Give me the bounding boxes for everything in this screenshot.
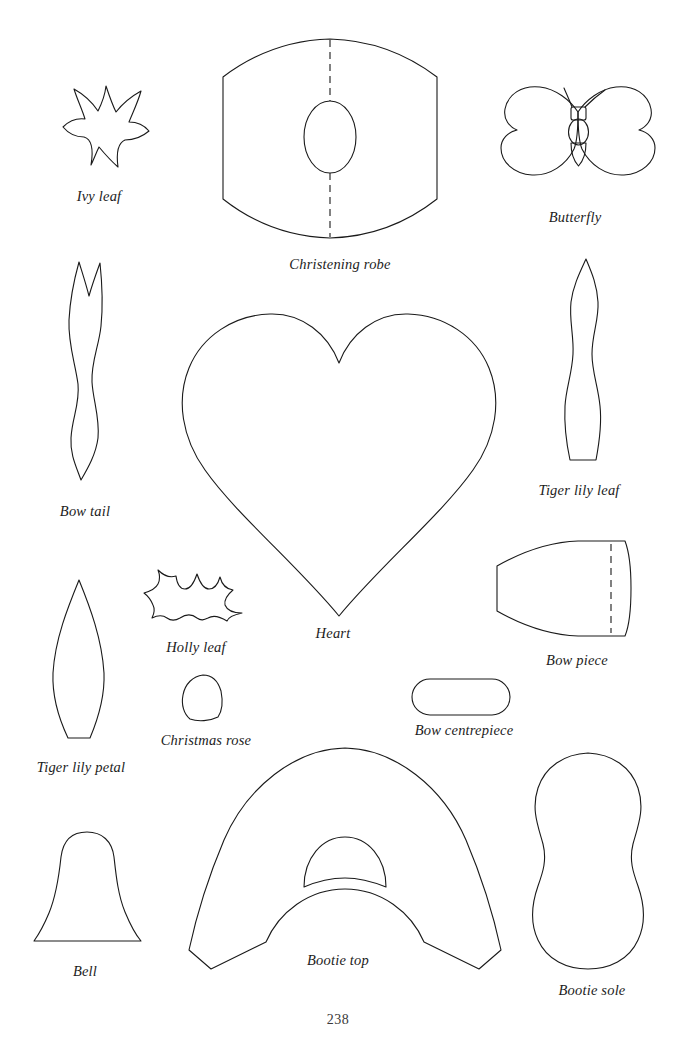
template-shape-christening-robe bbox=[210, 36, 450, 241]
template-shape-bow-tail bbox=[58, 258, 120, 483]
page-number: 238 bbox=[327, 1012, 350, 1028]
bow-tail-icon bbox=[58, 258, 120, 483]
bootie-top-icon bbox=[185, 745, 505, 985]
caption-heart: Heart bbox=[316, 625, 351, 642]
tiger-lily-petal-icon bbox=[48, 577, 110, 742]
bow-piece-icon bbox=[494, 536, 634, 641]
caption-christening-robe: Christening robe bbox=[289, 256, 390, 273]
caption-bow-piece: Bow piece bbox=[546, 652, 608, 669]
template-shape-butterfly bbox=[492, 82, 664, 187]
template-shape-tiger-lily-petal bbox=[48, 577, 110, 742]
template-shape-christmas-rose bbox=[180, 673, 228, 725]
tiger-lily-leaf-icon bbox=[562, 256, 614, 464]
template-shape-bell bbox=[30, 828, 145, 946]
template-shape-holly-leaf bbox=[144, 568, 244, 620]
caption-tiger-lily-petal: Tiger lily petal bbox=[37, 759, 126, 776]
template-shape-tiger-lily-leaf bbox=[562, 256, 614, 464]
caption-butterfly: Butterfly bbox=[549, 209, 602, 226]
caption-bootie-top: Bootie top bbox=[307, 952, 369, 969]
holly-leaf-icon bbox=[144, 568, 244, 620]
christening-robe-icon bbox=[210, 36, 450, 241]
template-shape-bootie-sole bbox=[528, 750, 648, 972]
butterfly-icon bbox=[492, 82, 664, 187]
caption-bow-centrepiece: Bow centrepiece bbox=[415, 722, 514, 739]
template-shape-bow-centrepiece bbox=[409, 676, 513, 718]
bell-icon bbox=[30, 828, 145, 946]
caption-tiger-lily-leaf: Tiger lily leaf bbox=[538, 482, 619, 499]
bootie-sole-icon bbox=[528, 750, 648, 972]
bow-centrepiece-icon bbox=[409, 676, 513, 718]
caption-ivy-leaf: Ivy leaf bbox=[77, 188, 122, 205]
caption-holly-leaf: Holly leaf bbox=[166, 639, 226, 656]
template-shape-ivy-leaf bbox=[50, 75, 160, 175]
template-sheet-page: Ivy leaf Christening robe Butterfly Bow … bbox=[0, 0, 677, 1049]
caption-bow-tail: Bow tail bbox=[60, 503, 110, 520]
template-shape-bow-piece bbox=[494, 536, 634, 641]
christmas-rose-icon bbox=[180, 673, 228, 725]
caption-bell: Bell bbox=[73, 963, 97, 980]
caption-bootie-sole: Bootie sole bbox=[558, 982, 625, 999]
ivy-leaf-icon bbox=[50, 75, 160, 175]
template-shape-bootie-top bbox=[185, 745, 505, 985]
